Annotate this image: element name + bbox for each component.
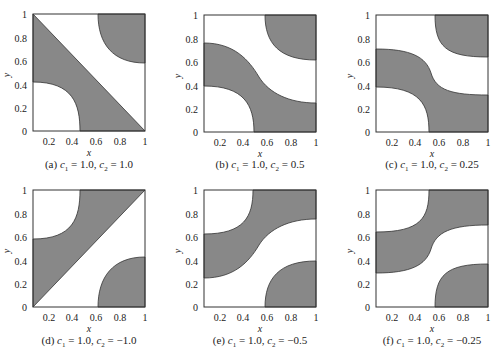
svg-text:0.6: 0.6 (15, 232, 28, 243)
svg-text:0.6: 0.6 (358, 57, 371, 68)
svg-text:1: 1 (193, 185, 198, 196)
svg-text:0.4: 0.4 (409, 312, 422, 323)
svg-text:0: 0 (193, 127, 198, 138)
panel-a: 1 0.8 0.6 0.4 0.2 0 0.2 0.4 0.6 0.8 1 x … (0, 0, 170, 184)
svg-text:1: 1 (314, 137, 319, 148)
caption-b: (b) c1 = 1.0, c2 = 0.5 (175, 158, 345, 173)
svg-text:0.4: 0.4 (186, 256, 199, 267)
panel-e: 1 0.8 0.6 0.4 0.2 0 0.2 0.4 0.6 0.8 1 x … (171, 176, 341, 358)
svg-text:y: y (344, 248, 355, 254)
svg-text:0.6: 0.6 (358, 232, 371, 243)
svg-text:0.8: 0.8 (186, 209, 199, 220)
caption-e: (e) c1 = 1.0, c2 = −0.5 (175, 334, 345, 349)
svg-text:0.4: 0.4 (358, 81, 371, 92)
svg-text:1: 1 (365, 185, 370, 196)
svg-text:0.2: 0.2 (386, 312, 399, 323)
svg-text:0.4: 0.4 (15, 80, 28, 91)
svg-text:0.4: 0.4 (237, 137, 250, 148)
caption-d: (d) c1 = 1.0, c2 = −1.0 (4, 334, 174, 349)
svg-text:0.6: 0.6 (261, 137, 274, 148)
svg-text:0.2: 0.2 (43, 312, 56, 323)
svg-text:0.6: 0.6 (186, 57, 199, 68)
svg-text:y: y (172, 248, 183, 254)
panel-f: 1 0.8 0.6 0.4 0.2 0 0.2 0.4 0.6 0.8 1 x … (343, 176, 499, 358)
svg-text:0.6: 0.6 (186, 232, 199, 243)
svg-text:0: 0 (22, 302, 27, 313)
svg-text:0.2: 0.2 (186, 104, 199, 115)
caption-f: (f) c1 = 1.0, c2 = −0.25 (347, 334, 499, 349)
svg-text:0.4: 0.4 (66, 312, 79, 323)
caption-a: (a) c1 = 1.0, c2 = 1.0 (4, 158, 174, 173)
svg-text:0.2: 0.2 (214, 137, 227, 148)
svg-text:0.8: 0.8 (457, 312, 470, 323)
svg-text:0.6: 0.6 (15, 56, 28, 67)
svg-text:0.4: 0.4 (237, 312, 250, 323)
svg-text:0.8: 0.8 (457, 137, 470, 148)
contour-plot-f: 1 0.8 0.6 0.4 0.2 0 0.2 0.4 0.6 0.8 1 x … (343, 176, 499, 356)
svg-text:0: 0 (193, 302, 198, 313)
svg-text:0.2: 0.2 (15, 103, 28, 114)
svg-text:0.2: 0.2 (186, 279, 199, 290)
svg-text:0.6: 0.6 (261, 312, 274, 323)
svg-text:0.8: 0.8 (358, 34, 371, 45)
svg-text:0.2: 0.2 (358, 279, 371, 290)
svg-text:1: 1 (486, 137, 491, 148)
svg-text:0: 0 (22, 126, 27, 137)
svg-text:0.2: 0.2 (43, 136, 56, 147)
svg-text:0.8: 0.8 (285, 137, 298, 148)
svg-text:y: y (344, 73, 355, 79)
svg-text:0.2: 0.2 (214, 312, 227, 323)
svg-text:1: 1 (143, 312, 148, 323)
svg-text:0.8: 0.8 (186, 34, 199, 45)
svg-text:0.8: 0.8 (15, 209, 28, 220)
x-axis-label: x (86, 147, 92, 158)
svg-text:0.8: 0.8 (358, 209, 371, 220)
svg-text:0.4: 0.4 (15, 256, 28, 267)
svg-text:y: y (172, 73, 183, 79)
svg-text:0.4: 0.4 (186, 81, 199, 92)
svg-text:1: 1 (314, 312, 319, 323)
svg-text:0.8: 0.8 (15, 33, 28, 44)
svg-text:0.8: 0.8 (114, 136, 127, 147)
panel-b: 1 0.8 0.6 0.4 0.2 0 0.2 0.4 0.6 0.8 1 x … (171, 1, 341, 185)
svg-text:0.6: 0.6 (90, 312, 103, 323)
svg-text:1: 1 (193, 10, 198, 21)
contour-plot-a: 1 0.8 0.6 0.4 0.2 0 0.2 0.4 0.6 0.8 1 x … (0, 0, 170, 180)
y-axis-label: y (1, 72, 12, 78)
contour-plot-c: 1 0.8 0.6 0.4 0.2 0 0.2 0.4 0.6 0.8 1 x … (343, 1, 499, 181)
svg-text:0.4: 0.4 (66, 136, 79, 147)
svg-text:x: x (257, 323, 263, 334)
svg-text:1: 1 (22, 185, 27, 196)
svg-text:0.4: 0.4 (409, 137, 422, 148)
svg-text:1: 1 (365, 10, 370, 21)
svg-text:y: y (1, 248, 12, 254)
contour-plot-e: 1 0.8 0.6 0.4 0.2 0 0.2 0.4 0.6 0.8 1 x … (171, 176, 341, 356)
svg-text:1: 1 (486, 312, 491, 323)
svg-text:0.6: 0.6 (90, 136, 103, 147)
svg-text:0.2: 0.2 (386, 137, 399, 148)
panel-d: 1 0.8 0.6 0.4 0.2 0 0.2 0.4 0.6 0.8 1 x … (0, 176, 170, 358)
svg-text:0.2: 0.2 (15, 279, 28, 290)
svg-text:0: 0 (365, 127, 370, 138)
svg-text:0.6: 0.6 (433, 312, 446, 323)
panel-c: 1 0.8 0.6 0.4 0.2 0 0.2 0.4 0.6 0.8 1 x … (343, 1, 499, 185)
svg-text:0: 0 (365, 302, 370, 313)
svg-text:0.8: 0.8 (114, 312, 127, 323)
contour-plot-d: 1 0.8 0.6 0.4 0.2 0 0.2 0.4 0.6 0.8 1 x … (0, 176, 170, 356)
svg-text:0.8: 0.8 (285, 312, 298, 323)
svg-text:0.2: 0.2 (358, 104, 371, 115)
svg-text:x: x (86, 323, 92, 334)
svg-text:1: 1 (22, 9, 27, 20)
contour-plot-b: 1 0.8 0.6 0.4 0.2 0 0.2 0.4 0.6 0.8 1 x … (171, 1, 341, 181)
svg-text:1: 1 (143, 136, 148, 147)
caption-c: (c) c1 = 1.0, c2 = 0.25 (347, 158, 499, 173)
svg-text:0.6: 0.6 (433, 137, 446, 148)
svg-text:x: x (429, 323, 435, 334)
svg-text:0.4: 0.4 (358, 256, 371, 267)
